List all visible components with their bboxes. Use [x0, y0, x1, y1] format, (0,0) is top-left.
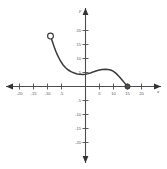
- plotted-curve: [51, 36, 128, 86]
- x-tick-label: 10: [111, 91, 116, 96]
- y-axis-up-arrow-icon: [83, 8, 89, 15]
- x-tick-label: -20: [17, 91, 24, 96]
- y-tick-label: -15: [75, 126, 82, 131]
- filled-circle-endpoint: [125, 84, 130, 89]
- x-axis-left-arrow-icon: [6, 84, 13, 90]
- y-axis-down-arrow-icon: [83, 156, 89, 163]
- graph-canvas: -20 -15 -10 -5 5 10 15 20 20 15 10 5 -5 …: [0, 0, 167, 169]
- y-tick-label: 15: [76, 42, 81, 47]
- x-tick-label: 15: [125, 91, 130, 96]
- y-tick-label: -10: [75, 112, 82, 117]
- x-tick-label: 5: [98, 91, 101, 96]
- y-tick-label: -20: [75, 140, 82, 145]
- x-axis-label: x: [156, 89, 160, 94]
- coordinate-plane-graph: -20 -15 -10 -5 5 10 15 20 20 15 10 5 -5 …: [0, 0, 167, 169]
- x-tick-label: -15: [31, 91, 38, 96]
- y-axis-label: y: [78, 8, 82, 13]
- y-tick-label: 20: [76, 28, 81, 33]
- x-tick-label: -10: [45, 91, 52, 96]
- x-tick-label: -5: [60, 91, 64, 96]
- y-tick-label: -5: [77, 98, 81, 103]
- open-circle-endpoint: [48, 33, 54, 39]
- x-tick-label: 20: [139, 91, 144, 96]
- x-axis-tick-labels: -20 -15 -10 -5 5 10 15 20: [17, 91, 145, 96]
- y-tick-label: 10: [76, 56, 81, 61]
